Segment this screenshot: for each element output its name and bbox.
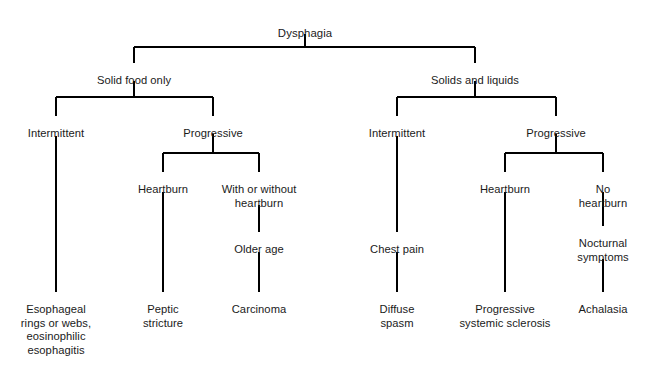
node-esophageal-rings: Esophageal rings or webs, eosinophilic e… xyxy=(21,303,91,357)
node-chest-pain: Chest pain xyxy=(370,243,424,257)
node-nocturnal-symptoms: Nocturnal symptoms xyxy=(577,237,628,264)
node-solids-and-liquids: Solids and liquids xyxy=(431,74,519,88)
node-carcinoma: Carcinoma xyxy=(232,303,287,317)
dysphagia-flowchart: DysphagiaSolid food onlySolids and liqui… xyxy=(0,0,659,375)
node-right-intermittent: Intermittent xyxy=(369,127,426,141)
node-older-age: Older age xyxy=(234,243,284,257)
node-right-progressive: Progressive xyxy=(526,127,586,141)
node-with-or-without: With or without heartburn xyxy=(222,183,297,210)
node-solid-food-only: Solid food only xyxy=(97,74,171,88)
node-right-heartburn: Heartburn xyxy=(480,183,530,197)
node-dysphagia: Dysphagia xyxy=(278,27,332,41)
node-achalasia: Achalasia xyxy=(579,303,628,317)
node-left-heartburn: Heartburn xyxy=(138,183,188,197)
node-left-progressive: Progressive xyxy=(183,127,243,141)
node-no-heartburn: No heartburn xyxy=(575,183,631,210)
node-left-intermittent: Intermittent xyxy=(28,127,85,141)
node-peptic-stricture: Peptic stricture xyxy=(143,303,183,330)
node-diffuse-spasm: Diffuse spasm xyxy=(380,303,415,330)
connector-layer xyxy=(0,0,659,375)
node-progressive-systemic: Progressive systemic sclerosis xyxy=(459,303,550,330)
